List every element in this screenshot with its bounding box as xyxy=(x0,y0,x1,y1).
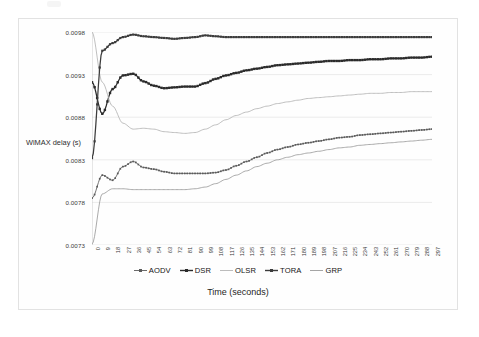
x-tick-label: 171 xyxy=(290,247,296,256)
legend-label: AODV xyxy=(149,266,171,275)
x-tick-label: 297 xyxy=(435,247,441,256)
chart-legend: AODVDSROLSRTORAGRP xyxy=(19,266,457,275)
x-tick-label: 108 xyxy=(218,247,224,256)
x-tick-label: 162 xyxy=(280,247,286,256)
legend-item-grp[interactable]: GRP xyxy=(310,266,342,275)
y-axis-tick-labels: 0.00730.00780.00830.00880.00930.0098 xyxy=(19,32,89,245)
x-tick-label: 117 xyxy=(229,247,235,256)
legend-item-olsr[interactable]: OLSR xyxy=(220,266,256,275)
scan-artifact xyxy=(47,1,61,7)
x-tick-label: 135 xyxy=(249,247,255,256)
x-tick-label: 0 xyxy=(95,247,101,250)
x-tick-label: 72 xyxy=(177,247,183,253)
legend-swatch-olsr-icon xyxy=(220,267,233,274)
series-line-aodv xyxy=(92,129,432,198)
y-tick-label: 0.0098 xyxy=(65,29,85,36)
x-tick-label: 207 xyxy=(332,247,338,256)
x-tick-label: 279 xyxy=(414,247,420,256)
x-tick-label: 126 xyxy=(239,247,245,256)
x-tick-label: 234 xyxy=(362,247,368,256)
x-tick-label: 54 xyxy=(156,247,162,253)
legend-item-aodv[interactable]: AODV xyxy=(134,266,171,275)
x-tick-label: 270 xyxy=(404,247,410,256)
legend-swatch-grp-icon xyxy=(310,267,323,274)
y-tick-label: 0.0078 xyxy=(65,199,85,206)
x-tick-label: 153 xyxy=(270,247,276,256)
x-tick-label: 27 xyxy=(126,247,132,253)
x-tick-label: 9 xyxy=(105,247,111,250)
legend-label: GRP xyxy=(325,266,342,275)
x-tick-label: 261 xyxy=(393,247,399,256)
legend-swatch-tora-icon xyxy=(265,267,278,274)
y-tick-label: 0.0073 xyxy=(65,242,85,249)
x-tick-label: 90 xyxy=(198,247,204,253)
x-tick-label: 81 xyxy=(187,247,193,253)
x-tick-label: 45 xyxy=(146,247,152,253)
y-tick-label: 0.0083 xyxy=(65,156,85,163)
series-line-tora xyxy=(92,35,432,159)
x-tick-label: 144 xyxy=(259,247,265,256)
legend-swatch-dsr-icon xyxy=(180,267,193,274)
series-markers-aodv xyxy=(92,128,432,199)
x-tick-label: 288 xyxy=(424,247,430,256)
x-tick-label: 18 xyxy=(115,247,121,253)
series-line-olsr xyxy=(92,32,432,133)
x-tick-label: 180 xyxy=(301,247,307,256)
legend-item-dsr[interactable]: DSR xyxy=(180,266,211,275)
x-tick-label: 252 xyxy=(383,247,389,256)
x-tick-label: 198 xyxy=(321,247,327,256)
legend-label: OLSR xyxy=(235,266,256,275)
x-tick-label: 99 xyxy=(208,247,214,253)
line-chart-svg xyxy=(92,32,432,245)
legend-item-tora[interactable]: TORA xyxy=(265,266,301,275)
y-tick-label: 0.0088 xyxy=(65,114,85,121)
x-tick-label: 63 xyxy=(167,247,173,253)
series-markers-dsr xyxy=(92,56,432,115)
series-line-dsr xyxy=(92,57,432,114)
x-tick-label: 189 xyxy=(311,247,317,256)
x-axis-title: Time (seconds) xyxy=(19,287,457,297)
x-tick-label: 243 xyxy=(373,247,379,256)
series-markers-tora xyxy=(92,33,432,159)
chart-figure: WiMAX delay (s) 0.00730.00780.00830.0088… xyxy=(18,18,458,310)
legend-label: TORA xyxy=(280,266,301,275)
plot-area xyxy=(92,32,432,245)
y-tick-label: 0.0093 xyxy=(65,71,85,78)
x-tick-label: 36 xyxy=(136,247,142,253)
legend-label: DSR xyxy=(195,266,211,275)
legend-swatch-aodv-icon xyxy=(134,267,147,274)
x-tick-label: 216 xyxy=(342,247,348,256)
x-tick-label: 225 xyxy=(352,247,358,256)
